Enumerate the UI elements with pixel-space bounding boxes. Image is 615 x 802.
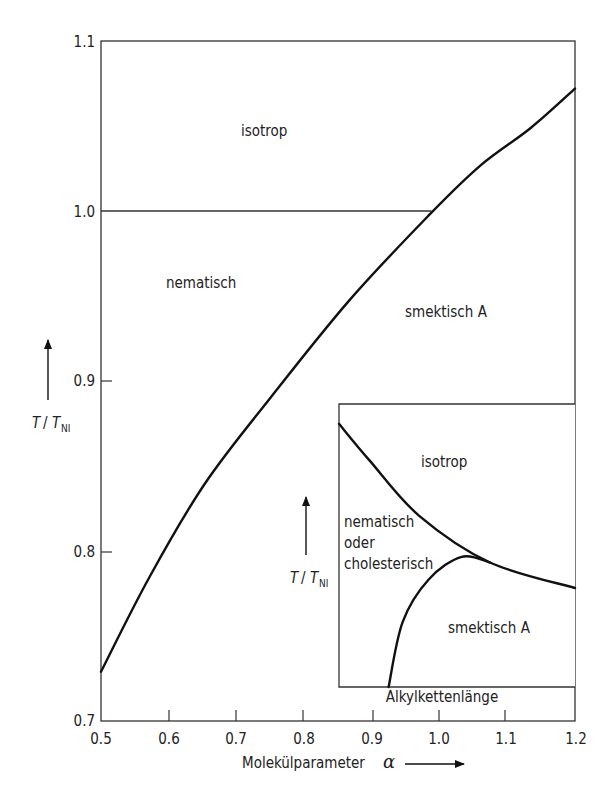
y-tick-label: 0.7 (74, 712, 95, 730)
y-tick-label: 0.8 (74, 543, 95, 561)
x-tick-label: 0.6 (158, 730, 179, 748)
y-axis-tick-labels: 0.7 0.8 0.9 1.0 1.1 (74, 33, 95, 730)
region-label-smektisch-a: smektisch A (405, 303, 488, 321)
y-axis-label-T: T (32, 414, 42, 432)
x-axis-label-text: Molekülparameter (242, 754, 365, 772)
x-tick-label: 0.7 (225, 730, 246, 748)
y-tick-label: 1.0 (74, 203, 95, 221)
x-axis-ticks (169, 710, 505, 721)
y-axis-label-sub: NI (61, 423, 70, 434)
x-tick-label: 1.1 (495, 730, 516, 748)
inset-y-axis-label-sep: / (301, 569, 306, 587)
inset-region-label-nematisch: nematisch (344, 513, 414, 531)
y-axis-label: T / T NI (32, 340, 70, 434)
x-tick-label: 0.8 (293, 730, 314, 748)
x-axis-tick-labels: 0.5 0.6 0.7 0.8 0.9 1.0 1.1 1.2 (90, 730, 586, 748)
x-tick-label: 0.5 (90, 730, 111, 748)
alpha-symbol: α (383, 751, 395, 772)
inset-region-label-isotrop: isotrop (421, 453, 467, 471)
region-label-nematisch: nematisch (166, 274, 236, 292)
inset-x-axis-label: Alkylkettenlänge (386, 688, 498, 706)
inset-region-label-smektisch-a: smektisch A (448, 619, 531, 637)
inset-chart: isotrop nematisch oder cholesterisch sme… (290, 404, 575, 706)
inset-region-label-cholesterisch: cholesterisch (344, 555, 433, 573)
phase-diagram-figure: 0.7 0.8 0.9 1.0 1.1 0.5 0.6 0.7 0.8 0.9 … (0, 0, 615, 802)
x-tick-label: 1.2 (565, 730, 586, 748)
inset-region-label-oder: oder (344, 534, 375, 552)
x-tick-label: 0.9 (361, 730, 382, 748)
region-label-isotrop: isotrop (241, 122, 287, 140)
inset-y-axis-label-sub: NI (319, 578, 328, 589)
y-axis-ticks (101, 381, 112, 552)
y-axis-label-sep: / (43, 414, 48, 432)
y-tick-label: 0.9 (74, 372, 95, 390)
x-tick-label: 1.0 (428, 730, 449, 748)
x-axis-label: Molekülparameter α (242, 751, 464, 772)
inset-y-axis-label-T: T (290, 569, 300, 587)
y-tick-label: 1.1 (74, 33, 95, 51)
